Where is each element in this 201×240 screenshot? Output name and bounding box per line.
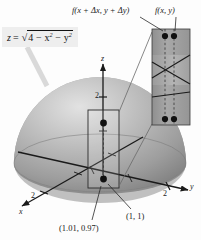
- axis-tick-x-2: 2: [31, 192, 35, 200]
- inset-magnified-strip: [152, 29, 190, 125]
- axis-label-y: y: [190, 183, 194, 191]
- radicand-main: 4 − x: [28, 32, 49, 43]
- equation-radical-group: √4 − x2 − y2: [21, 30, 73, 43]
- surface-equation-callout: z=√4 − x2 − y2: [2, 27, 78, 47]
- magnified-region-rect: [88, 110, 119, 188]
- surface-point-upper: [100, 120, 107, 127]
- axis-label-x: x: [19, 208, 23, 216]
- point-label-base: (1, 1): [126, 212, 144, 221]
- equation-lhs: z: [7, 32, 11, 43]
- callout-f-xy: f(x, y): [155, 6, 175, 15]
- equation-leader-line: [27, 47, 47, 86]
- figure-container: z=√4 − x2 − y2 f(x + Δx, y + Δy) f(x, y)…: [0, 0, 201, 240]
- inset-point-a-top: [162, 33, 168, 39]
- callout-f-delta: f(x + Δx, y + Δy): [72, 6, 129, 15]
- point-label-perturbed: (1.01, 0.97): [59, 224, 99, 233]
- radicand-exponent-y: 2: [69, 31, 72, 38]
- inset-point-b-bottom: [171, 116, 177, 122]
- surface-point-lower: [100, 176, 107, 183]
- axis-label-z: z: [101, 55, 104, 63]
- equation-radicand: 4 − x2 − y2: [27, 30, 73, 43]
- inset-point-b-top: [171, 33, 177, 39]
- equation-equals: =: [13, 32, 19, 43]
- axis-tick-z-2: 2: [95, 92, 99, 100]
- axis-tick-y-2: 2: [163, 190, 167, 198]
- radicand-mid: − y: [53, 32, 69, 43]
- inset-point-a-bottom: [162, 116, 168, 122]
